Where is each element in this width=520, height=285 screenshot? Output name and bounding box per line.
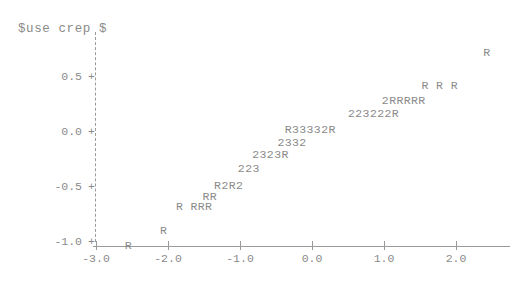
data-marker: R — [125, 240, 132, 252]
y-axis-line — [95, 32, 96, 242]
data-marker: 223222R — [348, 108, 399, 120]
x-tick-label: -2.0 — [148, 253, 188, 265]
character-scatter-plot: $use crep $ 0.5+0.0+-0.5+-1.0+ -3.0-2.0-… — [0, 0, 520, 285]
y-tick-glyph: + — [88, 181, 95, 193]
x-tick-label: 2.0 — [436, 253, 476, 265]
page-title: $use crep $ — [18, 22, 107, 36]
y-tick-glyph: + — [88, 236, 95, 248]
x-tick-mark — [240, 241, 241, 250]
x-tick-mark — [312, 241, 313, 250]
x-tick-label: 0.0 — [292, 253, 332, 265]
x-axis-line — [93, 246, 510, 247]
y-tick-glyph: + — [88, 71, 95, 83]
x-tick-mark — [384, 241, 385, 250]
data-marker: R33332R — [285, 124, 336, 136]
y-tick-label: 0.5 — [48, 71, 82, 83]
data-marker: R2R2 — [214, 180, 243, 192]
data-marker: 2RRRRR — [382, 95, 426, 107]
data-marker: RR — [203, 191, 218, 203]
data-marker: 223 — [238, 163, 260, 175]
x-tick-mark — [96, 241, 97, 250]
x-tick-label: -1.0 — [220, 253, 260, 265]
data-marker: R — [483, 47, 490, 59]
data-marker: 2332 — [277, 137, 306, 149]
data-marker: R R R — [421, 80, 458, 92]
y-tick-label: -0.5 — [48, 181, 82, 193]
x-tick-label: 1.0 — [364, 253, 404, 265]
y-tick-label: -1.0 — [48, 236, 82, 248]
x-tick-label: -3.0 — [76, 253, 116, 265]
x-tick-mark — [456, 241, 457, 250]
x-tick-mark — [168, 241, 169, 250]
data-marker: R — [160, 225, 167, 237]
y-tick-glyph: + — [88, 126, 95, 138]
data-marker: 2323R — [252, 149, 289, 161]
y-tick-label: 0.0 — [48, 126, 82, 138]
